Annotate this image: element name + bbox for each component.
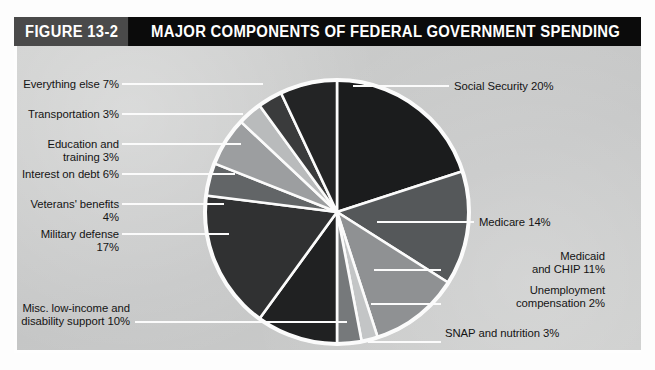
- figure-container: FIGURE 13-2 MAJOR COMPONENTS OF FEDERAL …: [0, 0, 655, 370]
- label-medicaid-and-chip: Medicaid and CHIP 11%: [445, 250, 605, 276]
- chart-panel: Social Security 20%Medicare 14%Medicaid …: [14, 46, 641, 353]
- label-transportation: Transportation 3%: [28, 108, 119, 121]
- label-unemployment-compensation: Unemployment compensation 2%: [445, 284, 605, 310]
- label-snap-and-nutrition: SNAP and nutrition 3%: [445, 327, 559, 340]
- label-medicare: Medicare 14%: [479, 216, 551, 229]
- figure-number-badge: FIGURE 13-2: [14, 17, 128, 46]
- label-social-security: Social Security 20%: [454, 80, 554, 93]
- label-misc-low-income-disability-support: Misc. low-income and disability support …: [21, 302, 130, 328]
- label-military-defense: Military defense 17%: [17, 228, 119, 254]
- label-education-and-training: Education and training 3%: [17, 138, 119, 164]
- figure-title-text: MAJOR COMPONENTS OF FEDERAL GOVERNMENT S…: [138, 17, 620, 46]
- figure-title-bar: FIGURE 13-2 MAJOR COMPONENTS OF FEDERAL …: [14, 17, 641, 46]
- label-interest-on-debt: Interest on debt 6%: [22, 168, 119, 181]
- label-veterans-benefits: Veterans' benefits 4%: [17, 198, 119, 224]
- label-everything-else: Everything else 7%: [23, 78, 119, 91]
